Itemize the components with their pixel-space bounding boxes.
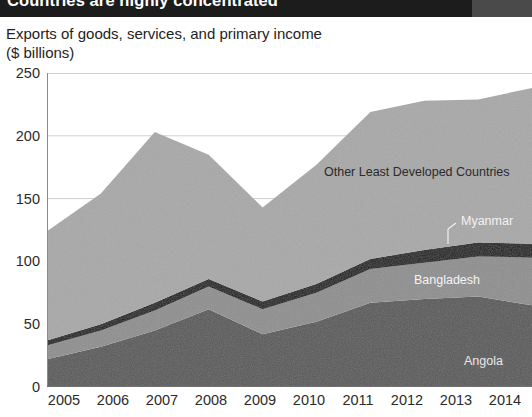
x-tick-2012: 2012	[383, 392, 431, 408]
y-tick-200: 200	[4, 128, 40, 144]
chart-page: Countries are highly concentrated Export…	[0, 0, 532, 417]
x-tick-2009: 2009	[236, 392, 284, 408]
x-tick-2008: 2008	[187, 392, 235, 408]
area-series-group	[47, 88, 532, 387]
y-tick-50: 50	[4, 316, 40, 332]
chart-title: Exports of goods, services, and primary …	[6, 25, 322, 42]
x-tick-2014: 2014	[481, 392, 529, 408]
x-tick-2010: 2010	[285, 392, 333, 408]
series-label-angola: Angola	[464, 354, 503, 368]
y-tick-100: 100	[4, 253, 40, 269]
chart-subtitle: ($ billions)	[6, 44, 74, 61]
x-tick-2005: 2005	[40, 392, 88, 408]
y-tick-150: 150	[4, 191, 40, 207]
header-banner-accent	[472, 0, 532, 17]
y-tick-0: 0	[4, 379, 40, 395]
stacked-area-chart	[47, 73, 532, 387]
x-tick-2013: 2013	[432, 392, 480, 408]
header-banner: Countries are highly concentrated	[0, 0, 532, 17]
plot-area: Other Least Developed Countries Myanmar …	[47, 73, 532, 387]
x-tick-2007: 2007	[138, 392, 186, 408]
series-label-myanmar: Myanmar	[461, 214, 513, 228]
series-label-bangladesh: Bangladesh	[414, 273, 480, 287]
y-tick-250: 250	[4, 65, 40, 81]
x-tick-2006: 2006	[89, 392, 137, 408]
header-banner-title: Countries are highly concentrated	[7, 0, 278, 10]
series-label-other: Other Least Developed Countries	[324, 165, 510, 179]
x-tick-2011: 2011	[334, 392, 382, 408]
